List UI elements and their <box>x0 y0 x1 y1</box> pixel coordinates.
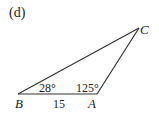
vertex-label-C: C <box>140 22 149 37</box>
figure-label: (d) <box>9 5 26 21</box>
side-AC <box>97 28 139 94</box>
vertex-label-B: B <box>15 96 23 111</box>
angle-label-A: 125° <box>76 81 99 95</box>
triangle-figure: (d) C B A 28° 125° 15 <box>0 0 159 118</box>
angle-label-B: 28° <box>39 81 56 95</box>
side-label-AB: 15 <box>53 97 65 111</box>
vertex-label-A: A <box>87 96 96 111</box>
